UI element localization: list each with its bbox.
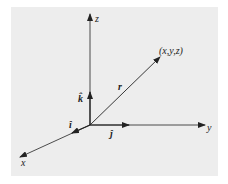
point-label: (x,y,z) (159, 45, 184, 57)
z-axis-label: z (94, 13, 99, 24)
coordinate-diagram: z y x k̂ ĵ î r (x,y,z) (0, 0, 228, 184)
i-hat-vector (72, 125, 90, 133)
x-axis-label: x (20, 157, 26, 168)
y-axis-label: y (206, 122, 212, 133)
r-vector-label: r (118, 81, 122, 92)
position-vector-r (90, 57, 160, 125)
k-hat-label: k̂ (78, 92, 83, 104)
j-hat-label: ĵ (108, 128, 114, 139)
i-hat-label: î (69, 119, 73, 130)
